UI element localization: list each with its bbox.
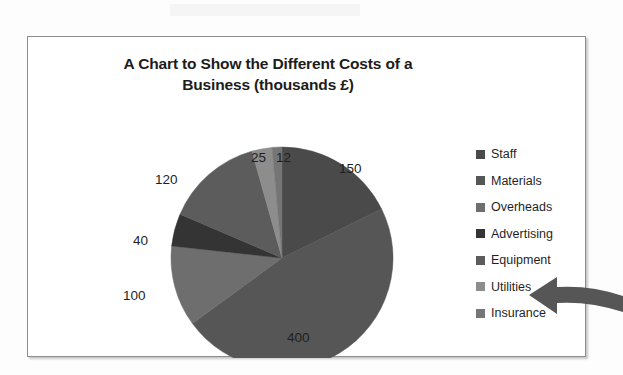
legend-swatch-icon-materials (476, 176, 485, 185)
legend-label-advertising: Advertising (491, 227, 553, 241)
slice-label-overheads: 100 (123, 288, 146, 303)
legend-swatch-icon-advertising (476, 229, 485, 238)
legend-item-advertising[interactable]: Advertising (476, 221, 586, 248)
legend-swatch-icon-staff (476, 150, 485, 159)
slice-label-insurance: 12 (276, 150, 291, 165)
legend-swatch-icon-insurance (476, 309, 485, 318)
pie-slices (171, 147, 393, 358)
legend-item-equipment[interactable]: Equipment (476, 247, 586, 274)
legend-label-utilities: Utilities (491, 280, 531, 294)
legend-item-insurance[interactable]: Insurance (476, 300, 586, 327)
legend-label-insurance: Insurance (491, 306, 546, 320)
legend-label-overheads: Overheads (491, 200, 552, 214)
slice-label-advertising: 40 (133, 233, 148, 248)
slice-label-staff: 150 (339, 161, 362, 176)
slice-label-utilities: 25 (251, 150, 266, 165)
legend-swatch-icon-equipment (476, 256, 485, 265)
slice-label-materials: 400 (287, 330, 310, 345)
chart-container[interactable]: A Chart to Show the Different Costs of a… (27, 36, 586, 357)
legend-label-staff: Staff (491, 147, 516, 161)
legend-label-equipment: Equipment (491, 253, 551, 267)
legend-item-utilities[interactable]: Utilities (476, 274, 586, 301)
legend-swatch-icon-utilities (476, 282, 485, 291)
legend-label-materials: Materials (491, 174, 542, 188)
legend-item-staff[interactable]: Staff (476, 141, 586, 168)
slice-label-equipment: 120 (155, 172, 178, 187)
legend-swatch-icon-overheads (476, 203, 485, 212)
scan-artifact (170, 4, 360, 16)
legend-item-materials[interactable]: Materials (476, 168, 586, 195)
legend-item-overheads[interactable]: Overheads (476, 194, 586, 221)
chart-legend: Staff Materials Overheads Advertising Eq… (476, 141, 586, 327)
